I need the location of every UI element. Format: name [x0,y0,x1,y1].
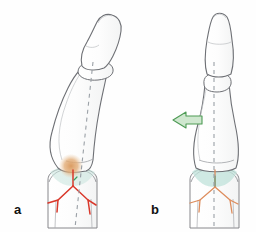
panel-b-group [173,13,239,228]
proximal-phalanx-outline-b [194,84,239,172]
panel-b-distal-phalanx [205,13,233,77]
panel-b-proximal-phalanx [194,84,239,172]
panel-a-group [48,14,121,228]
panel-label-b: b [151,203,159,216]
panel-label-a: a [14,203,21,216]
figure-canvas: a b [0,0,256,232]
distal-phalanx-outline-b [205,13,233,77]
hematoma-blob-a [59,154,83,178]
panel-a-distal-phalanx [81,14,121,70]
distal-phalanx-outline-a [81,14,121,70]
illustration-svg [0,0,256,232]
